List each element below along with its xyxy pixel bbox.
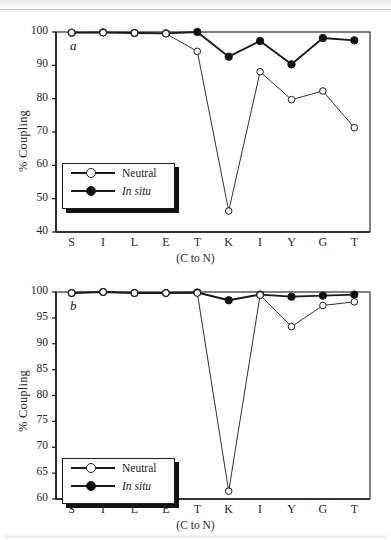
legend-label-insitu-a: In situ: [122, 185, 151, 197]
x-tick-label: I: [258, 502, 262, 517]
y-tick-label: 90: [12, 336, 48, 348]
x-tick-label: I: [101, 502, 105, 517]
x-tick-label: K: [224, 502, 233, 517]
x-tick-label: E: [162, 235, 169, 250]
legend-b: Neutral In situ: [62, 458, 175, 504]
plot-area-a: % Coupling a Neutral In situ (C to N): [0, 12, 391, 270]
legend-row-insitu-a: In situ: [63, 182, 174, 200]
figure-page: % Coupling a Neutral In situ (C to N): [0, 0, 391, 540]
y-tick-label: 100: [12, 284, 48, 296]
legend-row-neutral-a: Neutral: [63, 164, 174, 182]
y-tick-label: 85: [12, 362, 48, 374]
x-tick-label: G: [319, 502, 328, 517]
chart-panel-a: % Coupling a Neutral In situ (C to N): [0, 12, 391, 270]
x-tick-label: S: [68, 502, 75, 517]
y-tick-label: 60: [12, 491, 48, 503]
legend-row-neutral-b: Neutral: [63, 459, 174, 477]
chart-svg-b: [0, 272, 391, 530]
x-tick-label: L: [131, 502, 138, 517]
y-tick-label: 90: [12, 57, 48, 69]
x-tick-label: Y: [287, 502, 296, 517]
x-tick-label: Y: [287, 235, 296, 250]
y-tick-label: 75: [12, 413, 48, 425]
x-tick-label: K: [224, 235, 233, 250]
x-tick-label: T: [351, 502, 358, 517]
legend-label-neutral-b: Neutral: [122, 462, 156, 474]
page-header-fragment: [0, 0, 391, 9]
x-tick-label: E: [162, 502, 169, 517]
x-tick-label: L: [131, 235, 138, 250]
chart-svg-a: [0, 12, 391, 270]
x-axis-label-a: (C to N): [0, 252, 391, 264]
chart-panel-b: % Coupling b Neutral In situ (C to N): [0, 272, 391, 530]
x-tick-label: T: [194, 502, 201, 517]
legend-label-neutral-a: Neutral: [122, 167, 156, 179]
y-tick-label: 70: [12, 439, 48, 451]
legend-marker-insitu-b: [71, 479, 115, 493]
legend-row-insitu-b: In situ: [63, 477, 174, 495]
y-tick-label: 40: [12, 224, 48, 236]
y-tick-label: 50: [12, 191, 48, 203]
x-tick-label: T: [351, 235, 358, 250]
y-tick-label: 65: [12, 465, 48, 477]
y-tick-label: 95: [12, 310, 48, 322]
legend-marker-neutral-a: [71, 166, 115, 180]
x-tick-label: T: [194, 235, 201, 250]
y-tick-label: 80: [12, 388, 48, 400]
x-tick-label: S: [68, 235, 75, 250]
y-tick-label: 80: [12, 91, 48, 103]
plot-area-b: % Coupling b Neutral In situ (C to N): [0, 272, 391, 530]
page-footer-fragment: [4, 533, 387, 539]
x-tick-label: I: [258, 235, 262, 250]
x-tick-label: G: [319, 235, 328, 250]
header-rule: [0, 9, 391, 10]
legend-marker-neutral-b: [71, 461, 115, 475]
y-tick-label: 60: [12, 157, 48, 169]
legend-marker-insitu-a: [71, 184, 115, 198]
y-tick-label: 100: [12, 24, 48, 36]
x-tick-label: I: [101, 235, 105, 250]
y-tick-label: 70: [12, 124, 48, 136]
legend-label-insitu-b: In situ: [122, 480, 151, 492]
x-axis-label-b: (C to N): [0, 519, 391, 531]
legend-a: Neutral In situ: [62, 163, 175, 209]
